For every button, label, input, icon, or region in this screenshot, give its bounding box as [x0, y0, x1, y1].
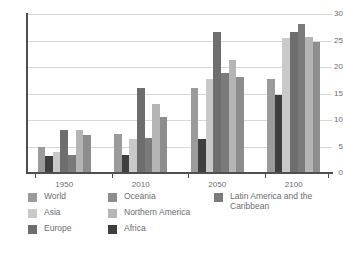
legend-label: Oceania	[124, 191, 156, 201]
x-tick-mark	[328, 174, 329, 178]
bar	[206, 79, 214, 173]
bar	[45, 156, 53, 173]
bar	[114, 134, 122, 173]
bar	[76, 130, 84, 173]
bar	[129, 139, 137, 173]
bar	[298, 24, 306, 173]
bar	[290, 32, 298, 174]
legend-label: Africa	[124, 223, 146, 233]
bar	[60, 130, 68, 173]
x-tick-label: 2050	[187, 180, 247, 189]
x-tick-mark	[265, 174, 266, 178]
bar	[282, 38, 290, 173]
legend-swatch-icon	[214, 193, 223, 202]
bar	[160, 117, 168, 173]
x-tick-mark	[35, 174, 36, 178]
x-tick-label: 1950	[34, 180, 94, 189]
legend-label: Latin America and the Caribbean	[230, 191, 314, 211]
x-tick-label: 2100	[264, 180, 324, 189]
bar	[236, 77, 244, 173]
bar	[267, 79, 275, 173]
bar	[221, 73, 229, 173]
bar	[83, 135, 91, 173]
legend-label: World	[44, 191, 66, 201]
legend-swatch-icon	[28, 193, 37, 202]
bar	[38, 147, 46, 174]
bar	[313, 42, 321, 173]
bar	[213, 32, 221, 174]
legend-swatch-icon	[108, 193, 117, 202]
x-tick-label: 2010	[111, 180, 171, 189]
bar	[68, 155, 76, 173]
legend-label: Northern America	[124, 207, 190, 217]
legend-label: Asia	[44, 207, 61, 217]
bar	[191, 88, 199, 173]
gridline	[26, 14, 332, 15]
bar-chart: 051015202530 1950201020502100 WorldAsiaE…	[0, 0, 343, 253]
bar	[152, 104, 160, 173]
legend-swatch-icon	[28, 209, 37, 218]
legend-label: Europe	[44, 223, 71, 233]
bar	[198, 139, 206, 173]
bar	[305, 37, 313, 173]
legend-swatch-icon	[28, 225, 37, 234]
plot-area	[26, 14, 332, 173]
bar	[122, 155, 130, 173]
bar	[145, 138, 153, 174]
y-axis-line	[26, 13, 28, 174]
bar	[137, 88, 145, 173]
bar	[275, 95, 283, 173]
bar	[229, 60, 237, 173]
x-tick-mark	[188, 174, 189, 178]
x-axis-line	[26, 172, 333, 174]
x-tick-mark	[112, 174, 113, 178]
legend-swatch-icon	[108, 209, 117, 218]
bar	[53, 152, 61, 173]
legend-swatch-icon	[108, 225, 117, 234]
